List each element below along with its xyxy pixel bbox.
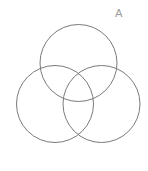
venn-circle-left [17,66,94,143]
venn-diagram [0,0,148,171]
venn-circle-right [63,66,140,143]
diagram-label: A [115,8,123,19]
venn-circle-top [40,25,117,102]
